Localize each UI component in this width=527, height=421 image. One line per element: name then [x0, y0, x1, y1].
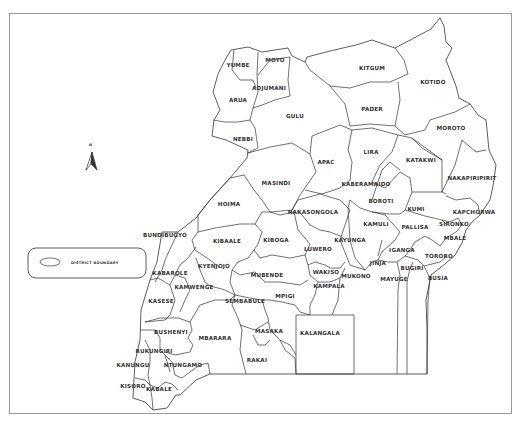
district-label-mubende: MUBENDE — [251, 272, 284, 278]
district-label-iganga: IGANGA — [389, 247, 415, 253]
district-label-kamwenge: KAMWENGE — [175, 284, 214, 290]
district-label-kotido: KOTIDO — [420, 79, 445, 85]
north-arrow: N — [86, 143, 97, 170]
district-label-hoima: HOIMA — [218, 201, 241, 207]
district-label-kalangala: KALANGALA — [300, 330, 340, 336]
district-label-moyo: MOYO — [265, 57, 285, 63]
district-label-gulu: GULU — [286, 113, 304, 119]
uganda-district-map: N DISTRICT BOUNDARY YUMBEMOYOADJUMANIARU… — [0, 0, 527, 421]
district-label-nakapiripirit: NAKAPIRIPIRIT — [447, 175, 496, 181]
district-label-kyenjojo: KYENJOJO — [198, 263, 230, 270]
district-label-kibaale: KIBAALE — [213, 238, 241, 244]
district-label-lira: LIRA — [363, 149, 379, 155]
district-label-rakai: RAKAI — [247, 357, 267, 363]
district-label-moroto: MOROTO — [436, 125, 465, 131]
district-label-busia: BUSIA — [428, 275, 449, 281]
district-label-nakasongola: NAKASONGOLA — [288, 209, 339, 215]
district-label-nebbi: NEBBI — [233, 136, 253, 142]
district-label-adjumani: ADJUMANI — [252, 85, 286, 92]
district-label-mbarara: MBARARA — [199, 335, 232, 341]
legend: DISTRICT BOUNDARY — [28, 248, 146, 278]
district-label-mukono: MUKONO — [341, 273, 371, 279]
district-boundary-symbol-icon — [40, 258, 60, 266]
district-label-kiboga: KIBOGA — [263, 237, 289, 243]
district-label-kitgum: KITGUM — [359, 65, 385, 71]
north-label: N — [89, 143, 92, 147]
district-label-mpigi: MPIGI — [275, 293, 294, 299]
district-label-wakiso: WAKISO — [313, 269, 340, 275]
district-label-jinja: JINJA — [369, 260, 387, 267]
legend-label: DISTRICT BOUNDARY — [71, 261, 119, 265]
district-label-rukungiri: RUKUNGIRI — [135, 348, 172, 354]
district-label-kaberamaido: KABERAMAIDO — [342, 181, 391, 187]
district-label-bushenyi: BUSHENYI — [154, 329, 188, 335]
district-label-mayuge: MAYUGE — [380, 276, 408, 282]
district-label-kumi: KUMI — [407, 206, 424, 212]
district-label-yumbe: YUMBE — [225, 62, 249, 68]
district-label-bugiri: BUGIRI — [400, 265, 423, 271]
district-label-kapchorwa: KAPCHORWA — [453, 209, 496, 215]
district-label-apac: APAC — [317, 159, 334, 165]
district-label-kasese: KASESE — [148, 298, 174, 304]
district-label-luwero: LUWERO — [304, 246, 332, 252]
district-label-pader: PADER — [361, 106, 383, 112]
district-label-bundibugyo: BUNDIBUGYO — [143, 232, 187, 238]
district-label-kayunga: KAYUNGA — [334, 237, 366, 243]
district-label-tororo: TORORO — [425, 253, 453, 259]
district-label-sembabule: SEMBABULE — [225, 298, 265, 304]
district-label-mbale: MBALE — [444, 235, 467, 241]
district-label-kampala: KAMPALA — [313, 283, 345, 289]
district-label-masindi: MASINDI — [262, 180, 291, 186]
district-label-boroti: BOROTI — [368, 198, 393, 204]
district-label-arua: ARUA — [229, 97, 248, 103]
district-label-kabale: KABALE — [146, 386, 172, 392]
district-label-ntungamo: NTUNGAMO — [164, 362, 203, 368]
district-label-masaka: MASAKA — [255, 328, 284, 334]
district-label-kabarole: KABAROLE — [152, 270, 187, 276]
district-label-sironko: SIRONKO — [439, 221, 469, 227]
district-label-kamuli: KAMULI — [363, 221, 389, 227]
district-label-katakwi: KATAKWI — [406, 157, 436, 163]
district-label-kisoro: KISORO — [120, 383, 146, 389]
district-label-pallisa: PALLISA — [402, 224, 429, 230]
district-label-kanungu: KANUNGU — [116, 362, 149, 368]
